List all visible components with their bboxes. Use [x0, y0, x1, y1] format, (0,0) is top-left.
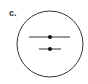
outer-circle [17, 11, 83, 77]
upper-segment-dot [48, 35, 52, 39]
circle-diagram [0, 0, 88, 84]
lower-segment-dot [48, 47, 52, 51]
